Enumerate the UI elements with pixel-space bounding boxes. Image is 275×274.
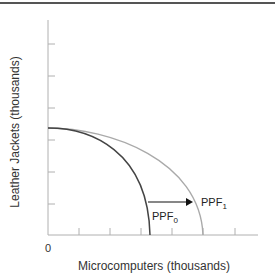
ppf1-label-sub: 1 — [222, 202, 226, 211]
ppf0-label-sub: 0 — [173, 216, 177, 225]
y-ticks — [48, 44, 55, 204]
y-axis-label: Leather Jackets (thousands) — [8, 56, 22, 207]
ppf1-curve — [48, 128, 203, 235]
ppf1-label-base: PPF — [201, 196, 222, 208]
ppf0-curve — [48, 128, 150, 235]
x-ticks — [79, 228, 235, 235]
ppf0-label-base: PPF — [152, 210, 173, 222]
origin-label: 0 — [45, 242, 51, 254]
x-axis-label: Microcomputers (thousands) — [78, 259, 230, 273]
arrow-right-icon — [186, 198, 193, 206]
ppf-chart — [0, 0, 275, 274]
ppf1-label: PPF1 — [201, 196, 227, 211]
ppf0-label: PPF0 — [152, 210, 178, 225]
